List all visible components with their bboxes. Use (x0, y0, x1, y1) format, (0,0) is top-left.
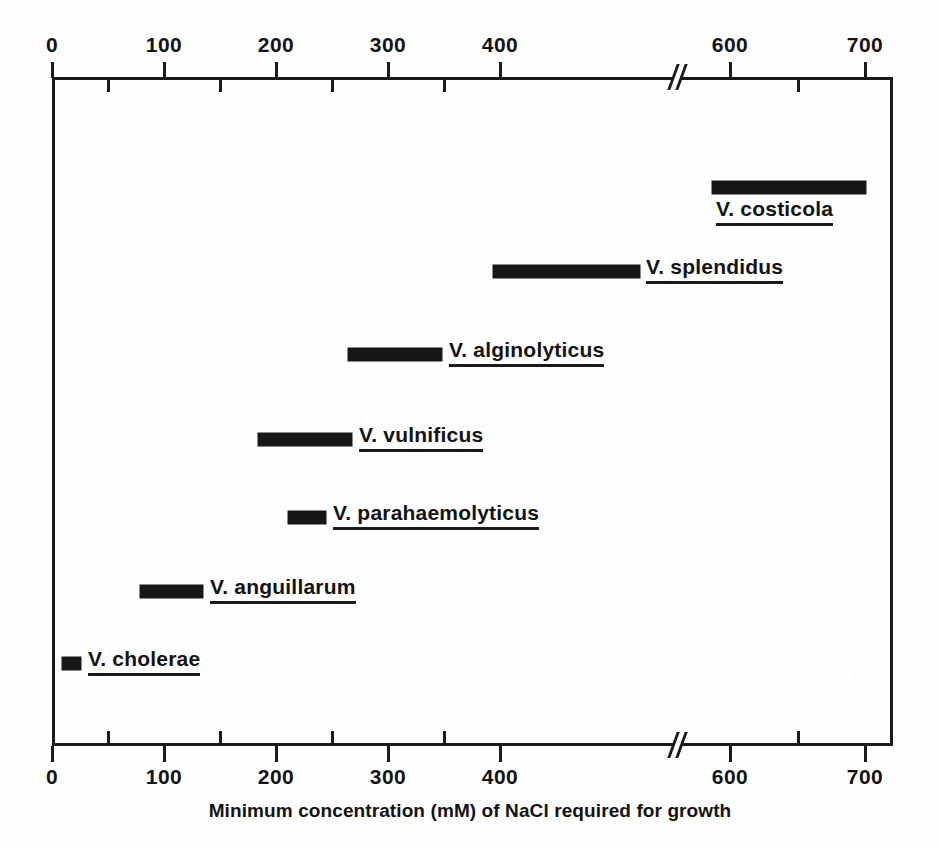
range-bar-v-cholerae (62, 657, 81, 670)
bottom-tick-600 (729, 746, 732, 762)
bottom-minor-tick-350 (443, 731, 446, 746)
top-tick-700 (864, 62, 867, 78)
bottom-tick-0 (51, 746, 54, 762)
range-bar-v-alginolyticus (348, 348, 442, 361)
bottom-tick-300 (387, 746, 390, 762)
bottom-tick-400 (499, 746, 502, 762)
plot-frame (52, 77, 893, 746)
top-tick-label-100: 100 (129, 33, 199, 57)
range-bar-v-anguillarum (140, 585, 203, 598)
top-tick-label-200: 200 (241, 33, 311, 57)
series-label-v-cholerae: V. cholerae (88, 648, 200, 676)
bottom-tick-label-300: 300 (353, 765, 423, 789)
top-tick-400 (499, 62, 502, 78)
top-tick-label-400: 400 (465, 33, 535, 57)
top-tick-label-600: 600 (695, 33, 765, 57)
bottom-minor-tick-50 (107, 731, 110, 746)
top-tick-0 (51, 62, 54, 78)
chart-figure: 0 100 200 300 400 600 700 0 100 200 300 … (0, 0, 940, 846)
bottom-tick-label-400: 400 (465, 765, 535, 789)
series-label-v-vulnificus: V. vulnificus (359, 424, 483, 452)
bottom-minor-tick-250 (331, 731, 334, 746)
bottom-tick-700 (864, 746, 867, 762)
bottom-tick-label-700: 700 (830, 765, 900, 789)
top-tick-100 (163, 62, 166, 78)
top-minor-tick-50 (107, 78, 110, 92)
series-label-v-parahaemolyticus: V. parahaemolyticus (333, 502, 539, 530)
bottom-tick-label-100: 100 (129, 765, 199, 789)
top-minor-tick-350 (443, 78, 446, 92)
bottom-tick-label-600: 600 (695, 765, 765, 789)
bottom-tick-100 (163, 746, 166, 762)
top-tick-label-0: 0 (17, 33, 87, 57)
top-minor-tick-250 (331, 78, 334, 92)
bottom-minor-tick-650 (797, 731, 800, 746)
axis-break-top (667, 64, 689, 90)
range-bar-v-parahaemolyticus (288, 511, 326, 524)
top-tick-label-700: 700 (830, 33, 900, 57)
bottom-tick-200 (275, 746, 278, 762)
top-tick-300 (387, 62, 390, 78)
series-label-v-costicola: V. costicola (716, 198, 833, 226)
top-minor-tick-150 (219, 78, 222, 92)
top-tick-label-300: 300 (353, 33, 423, 57)
range-bar-v-costicola (712, 181, 866, 194)
top-minor-tick-650 (797, 78, 800, 92)
series-label-v-alginolyticus: V. alginolyticus (449, 339, 604, 367)
series-label-v-anguillarum: V. anguillarum (210, 576, 356, 604)
range-bar-v-vulnificus (258, 433, 352, 446)
axis-break-bottom (667, 732, 689, 758)
series-label-v-splendidus: V. splendidus (646, 256, 783, 284)
top-tick-600 (729, 62, 732, 78)
bottom-minor-tick-150 (219, 731, 222, 746)
range-bar-v-splendidus (493, 265, 640, 278)
top-tick-200 (275, 62, 278, 78)
bottom-tick-label-0: 0 (17, 765, 87, 789)
x-axis-title: Minimum concentration (mM) of NaCl requi… (0, 800, 940, 822)
bottom-tick-label-200: 200 (241, 765, 311, 789)
